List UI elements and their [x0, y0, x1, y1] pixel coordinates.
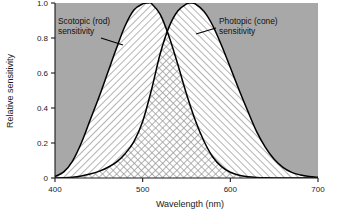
y-tick-label: 0.8: [37, 34, 49, 43]
scotopic-label-line2: sensitivity: [58, 26, 95, 36]
x-tick-label: 700: [311, 185, 325, 194]
photopic-label-line1: Photopic (cone): [219, 16, 278, 26]
y-tick-label: 0.6: [37, 69, 49, 78]
x-tick-label: 400: [48, 185, 62, 194]
x-tick-label: 600: [224, 185, 238, 194]
x-axis-title: Wavelength (nm): [156, 199, 224, 209]
y-tick-label: 1.0: [37, 0, 49, 8]
x-tick-label: 500: [136, 185, 150, 194]
sensitivity-chart-figure: 00.20.40.60.81.0 400500600700 Relative s…: [0, 0, 337, 215]
y-tick-label: 0.2: [37, 139, 49, 148]
photopic-label-line2: sensitivity: [219, 26, 256, 36]
y-tick-label: 0: [44, 174, 49, 183]
y-axis-title: Relative sensitivity: [5, 53, 15, 128]
y-tick-label: 0.4: [37, 104, 49, 113]
scotopic-label-line1: Scotopic (rod): [58, 16, 110, 26]
